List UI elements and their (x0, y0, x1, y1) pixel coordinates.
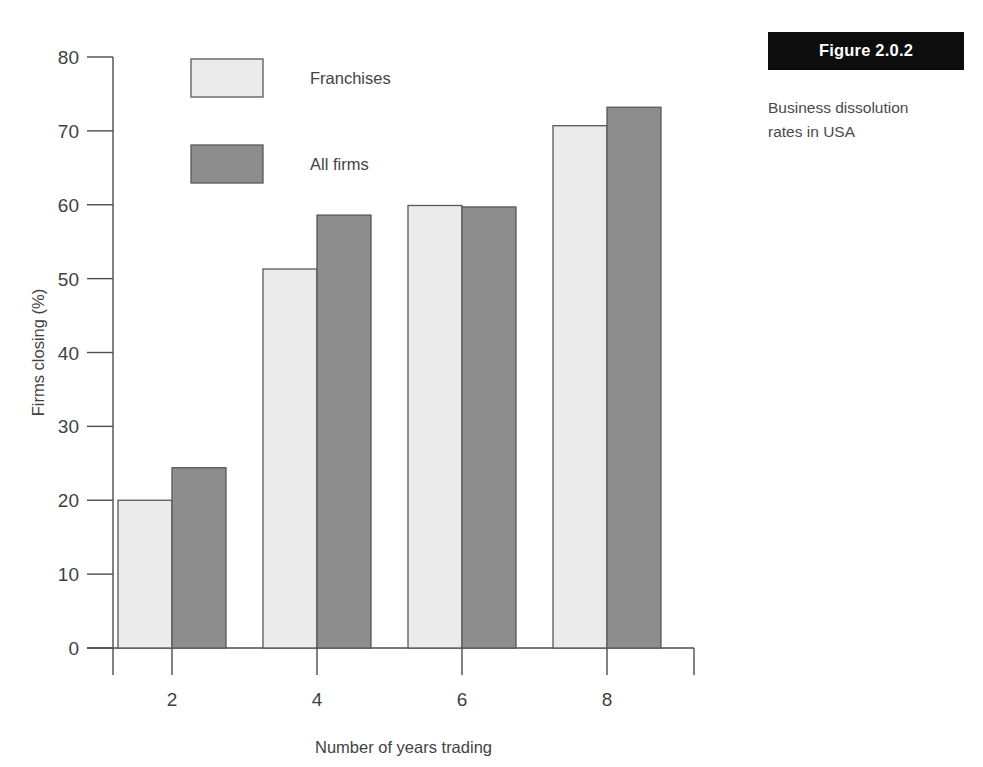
bar-all-firms-year-8 (607, 107, 661, 648)
bar-chart: 01020304050607080Firms closing (%)2468Nu… (0, 0, 768, 767)
y-tick-label: 40 (58, 343, 79, 364)
chart-container: 01020304050607080Firms closing (%)2468Nu… (0, 0, 768, 767)
y-tick-label: 10 (58, 564, 79, 585)
y-tick-label: 60 (58, 195, 79, 216)
caption-line-1: Business dissolution (768, 99, 908, 116)
bar-all-firms-year-2 (172, 468, 226, 648)
figure-number-badge: Figure 2.0.2 (768, 32, 964, 70)
y-tick-label: 0 (68, 638, 79, 659)
legend-swatch-franchises (191, 59, 263, 97)
y-tick-label: 30 (58, 416, 79, 437)
caption-line-2: rates in USA (768, 123, 855, 140)
bar-franchises-year-2 (118, 500, 172, 648)
y-axis-title: Firms closing (%) (29, 289, 47, 416)
y-tick-label: 50 (58, 269, 79, 290)
legend-label-all-firms: All firms (310, 155, 369, 173)
bar-franchises-year-6 (408, 205, 462, 648)
y-tick-label: 70 (58, 121, 79, 142)
bar-franchises-year-8 (553, 126, 607, 648)
x-axis-title: Number of years trading (315, 738, 492, 756)
bar-franchises-year-4 (263, 269, 317, 648)
y-tick-label: 20 (58, 490, 79, 511)
bar-all-firms-year-6 (462, 207, 516, 648)
legend-label-franchises: Franchises (310, 69, 391, 87)
figure-caption-text: Business dissolution rates in USA (768, 96, 958, 144)
legend-swatch-all-firms (191, 145, 263, 183)
x-tick-label: 4 (312, 689, 323, 710)
x-tick-label: 2 (167, 689, 178, 710)
x-tick-label: 8 (602, 689, 613, 710)
x-tick-label: 6 (457, 689, 468, 710)
y-tick-label: 80 (58, 47, 79, 68)
bar-all-firms-year-4 (317, 215, 371, 648)
figure-caption-block: Figure 2.0.2 Business dissolution rates … (768, 32, 968, 144)
